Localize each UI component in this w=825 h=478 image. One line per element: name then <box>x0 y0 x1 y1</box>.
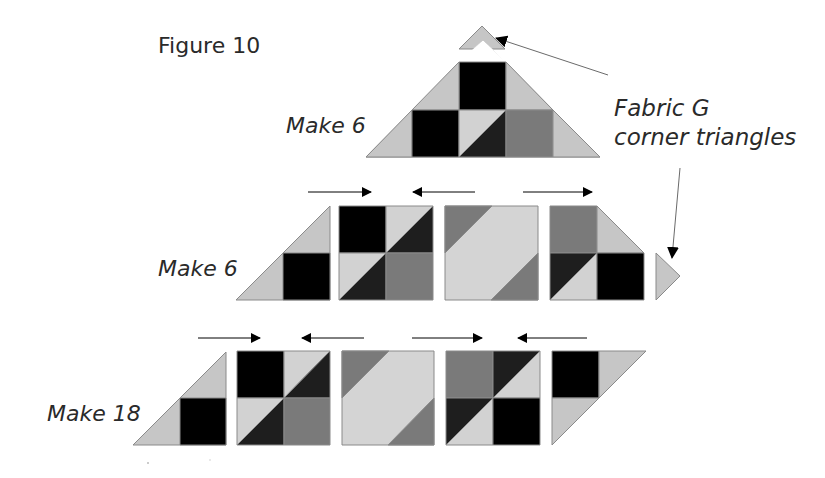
bottom-block-1 <box>237 351 330 445</box>
middle-block-2 <box>445 206 538 300</box>
top-triangle-unit <box>366 26 600 157</box>
middle-left-piece <box>236 206 330 300</box>
corner-triangle-right <box>656 253 680 300</box>
bottom-right-piece <box>552 351 646 445</box>
quilt-assembly-diagram <box>0 0 825 478</box>
middle-right-piece <box>550 206 644 300</box>
bottom-block-2 <box>342 351 434 445</box>
bottom-left-piece <box>133 352 226 445</box>
bottom-block-3 <box>446 351 540 445</box>
leader-arrow-right-icon <box>672 168 680 258</box>
middle-block-1 <box>339 206 433 300</box>
